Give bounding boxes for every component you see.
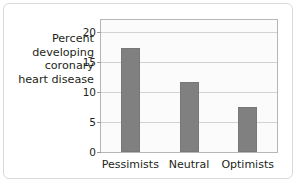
bar-pessimists [121,48,140,152]
y-tick-mark-15 [97,62,101,63]
chart-card: Percent developing coronary heart diseas… [3,3,293,179]
y-axis-caption: Percent developing coronary heart diseas… [10,32,94,86]
plot-frame: 05101520PessimistsNeutralOptimists [100,19,278,153]
y-tick-mark-20 [97,32,101,33]
y-tick-label-20: 20 [83,26,96,38]
bar-optimists [238,107,257,152]
y-tick-mark-10 [97,92,101,93]
y-axis-caption-line-1: Percent [10,32,94,46]
bar-chart-figure: Percent developing coronary heart diseas… [4,4,294,180]
y-tick-label-5: 5 [89,116,96,128]
bar-neutral [180,82,199,152]
x-axis-label-pessimists: Pessimists [102,158,159,171]
y-tick-label-0: 0 [89,146,96,158]
y-axis-caption-line-2: developing [10,46,94,60]
y-axis-caption-line-3: coronary [10,59,94,73]
y-tick-mark-5 [97,122,101,123]
y-tick-label-10: 10 [83,86,96,98]
x-axis-label-neutral: Neutral [169,158,210,171]
y-tick-label-15: 15 [83,56,96,68]
x-axis-label-optimists: Optimists [221,158,274,171]
y-axis-caption-line-4: heart disease [10,73,94,87]
y-tick-mark-0 [97,152,101,153]
gridline-20 [101,32,277,33]
plot-area: 05101520PessimistsNeutralOptimists [101,20,277,152]
